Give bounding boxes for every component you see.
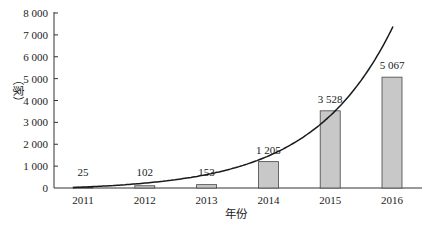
y-tick-label: 1 000 [23,160,48,172]
x-tick-label: 2011 [72,194,94,206]
x-tick-label: 2012 [134,194,156,206]
x-tick-label: 2015 [319,194,342,206]
y-tick-label: 3 000 [23,116,48,128]
data-labels-group: 251021531 2053 5285 067 [78,59,405,178]
y-tick-label: 6 000 [23,51,48,63]
bar-2013 [197,185,217,188]
data-label-2014: 1 205 [256,144,281,156]
bars-group [73,77,402,188]
bar-chart: 01 0002 0003 0004 0005 0006 0007 0008 00… [0,0,426,229]
trend-curve [73,27,393,188]
data-label-2011: 25 [78,166,90,178]
bar-2016 [382,77,402,188]
y-tick-label: 4 000 [23,95,48,107]
x-axis: 201120122013201420152016 [54,188,422,206]
y-tick-label: 8 000 [23,7,48,19]
y-tick-label: 2 000 [23,138,48,150]
x-tick-label: 2016 [381,194,404,206]
bar-2012 [135,186,155,188]
x-tick-label: 2014 [257,194,280,206]
y-tick-label: 0 [43,182,49,194]
data-label-2015: 3 528 [318,93,343,105]
data-label-2012: 102 [137,166,154,178]
bar-2014 [258,162,278,188]
data-label-2016: 5 067 [380,59,405,71]
y-axis-title: （家） [12,74,25,107]
x-axis-title: 年份 [225,207,248,220]
y-tick-label: 5 000 [23,73,48,85]
x-tick-label: 2013 [196,194,219,206]
y-tick-label: 7 000 [23,29,48,41]
y-axis: 01 0002 0003 0004 0005 0006 0007 0008 00… [23,7,58,194]
